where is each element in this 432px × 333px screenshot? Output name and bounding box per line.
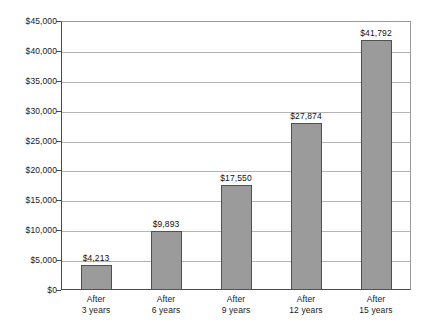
- x-tick-label: After15 years: [341, 294, 411, 315]
- bar-group[interactable]: $4,213: [81, 21, 112, 290]
- bar-group[interactable]: $9,893: [151, 21, 182, 290]
- y-tick-label: $45,000: [0, 16, 57, 26]
- x-tick-label-line: 6 years: [131, 305, 201, 316]
- x-tick-label: After9 years: [201, 294, 271, 315]
- y-tick-label: $20,000: [0, 165, 57, 175]
- y-tick-label: $15,000: [0, 195, 57, 205]
- bar-group[interactable]: $41,792: [361, 21, 392, 290]
- bar[interactable]: [361, 40, 392, 290]
- y-tick-label: $10,000: [0, 225, 57, 235]
- x-tick-label: After6 years: [131, 294, 201, 315]
- x-tick-label-line: After: [341, 294, 411, 305]
- y-tick-label: $40,000: [0, 46, 57, 56]
- x-tick-label-line: 15 years: [341, 305, 411, 316]
- x-tick-label: After3 years: [61, 294, 131, 315]
- y-tick-label: $0: [0, 285, 57, 295]
- x-tick-label: After12 years: [271, 294, 341, 315]
- y-tick-mark: [56, 290, 61, 291]
- x-tick-label-line: 9 years: [201, 305, 271, 316]
- y-tick-label: $5,000: [0, 255, 57, 265]
- y-tick-label: $35,000: [0, 76, 57, 86]
- x-tick-label-line: After: [271, 294, 341, 305]
- x-tick-label-line: 12 years: [271, 305, 341, 316]
- bar[interactable]: [291, 123, 322, 290]
- bar-value-label: $9,893: [153, 219, 180, 229]
- bar[interactable]: [221, 185, 252, 290]
- bar-group[interactable]: $17,550: [221, 21, 252, 290]
- y-tick-label: $25,000: [0, 136, 57, 146]
- bar-chart: $0$5,000$10,000$15,000$20,000$25,000$30,…: [0, 0, 432, 333]
- bar[interactable]: [151, 231, 182, 290]
- bar-value-label: $4,213: [83, 253, 110, 263]
- bar-value-label: $27,874: [290, 111, 321, 121]
- bar-value-label: $41,792: [360, 28, 391, 38]
- bar-value-label: $17,550: [220, 173, 251, 183]
- x-tick-label-line: After: [201, 294, 271, 305]
- bar[interactable]: [81, 265, 112, 290]
- y-tick-label: $30,000: [0, 106, 57, 116]
- x-axis: After3 yearsAfter6 yearsAfter9 yearsAfte…: [61, 294, 411, 324]
- bars-layer: $4,213$9,893$17,550$27,874$41,792: [61, 21, 411, 290]
- x-tick-label-line: 3 years: [61, 305, 131, 316]
- bar-group[interactable]: $27,874: [291, 21, 322, 290]
- x-tick-label-line: After: [131, 294, 201, 305]
- x-tick-label-line: After: [61, 294, 131, 305]
- y-axis: $0$5,000$10,000$15,000$20,000$25,000$30,…: [0, 21, 57, 290]
